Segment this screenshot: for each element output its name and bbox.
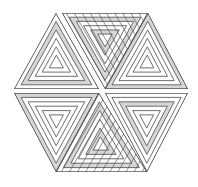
hexagon-pattern-figure (0, 0, 198, 187)
triangle-layer (0, 0, 198, 187)
hexagon-pattern-svg (0, 0, 198, 187)
